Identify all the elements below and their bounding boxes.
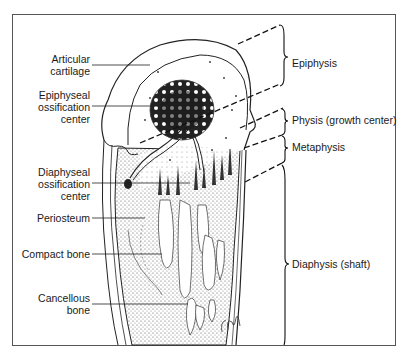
label-line: bone	[38, 304, 90, 316]
label-line: Periosteum	[37, 212, 90, 224]
label-line: Cancellous	[38, 292, 90, 304]
label-diaphysis: Diaphysis (shaft)	[292, 258, 370, 270]
label-metaphysis: Metaphysis	[292, 141, 345, 153]
label-articular-cartilage: Articular cartilage	[50, 53, 90, 77]
label-line: Compact bone	[22, 248, 90, 260]
label-compact-bone: Compact bone	[22, 248, 90, 260]
label-line: cartilage	[50, 65, 90, 77]
label-cancellous-bone: Cancellous bone	[38, 292, 90, 316]
label-line: ossification	[38, 101, 90, 113]
label-line: center	[38, 190, 90, 202]
label-physis: Physis (growth center)	[292, 114, 396, 126]
zone-braces	[280, 25, 289, 345]
label-line: center	[38, 113, 90, 125]
label-line: ossification	[38, 178, 90, 190]
label-line: Articular	[50, 53, 90, 65]
label-epiphyseal-ossification-center: Epiphyseal ossification center	[38, 89, 90, 125]
label-diaphyseal-ossification-center: Diaphyseal ossification center	[38, 166, 90, 202]
label-line: Diaphyseal	[38, 166, 90, 178]
label-line: Epiphyseal	[38, 89, 90, 101]
label-periosteum: Periosteum	[37, 212, 90, 224]
label-epiphysis: Epiphysis	[292, 57, 337, 69]
